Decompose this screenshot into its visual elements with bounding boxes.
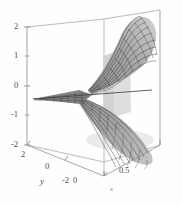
z-tick-label-minus-1: -1 [11, 110, 18, 119]
z-tick-label-1: 1 [14, 51, 18, 60]
y-axis-label: y [40, 177, 44, 186]
z-tick-label-0: 0 [14, 81, 18, 90]
surface-plot-figure: 2 1 0 -1 -2 2 0 -2 y 0 0.5 x [0, 0, 182, 204]
z-tick-label-2: 2 [14, 22, 18, 31]
x-axis-label: x [110, 186, 113, 193]
z-tick-label-minus-2: -2 [11, 140, 18, 149]
surface-floor-shadow [86, 130, 154, 150]
y-tick-label-0: 0 [45, 162, 49, 171]
y-tick-label-minus-2: -2 [62, 176, 69, 185]
plot-canvas [0, 0, 182, 204]
x-tick-label-0: 0 [73, 176, 77, 185]
y-tick-label-2: 2 [21, 150, 25, 159]
x-tick-label-0-5: 0.5 [119, 166, 129, 175]
